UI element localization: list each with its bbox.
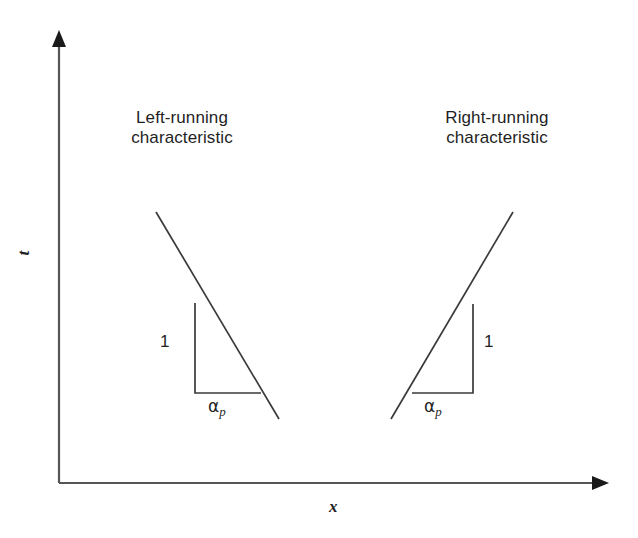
- t-axis-label: t: [14, 251, 34, 256]
- left-running-characteristic-line: [156, 212, 279, 419]
- left-running-characteristic-label-line2: characteristic: [131, 128, 233, 147]
- left-run-label-symbol: α: [208, 396, 219, 416]
- left-running-characteristic-label: Left-runningcharacteristic: [92, 108, 272, 148]
- left-running-characteristic-label-line1: Left-running: [136, 108, 228, 127]
- right-run-label: αp: [424, 396, 442, 419]
- left-run-label: αp: [208, 396, 226, 419]
- x-axis-arrowhead-icon: [592, 476, 609, 490]
- diagram-canvas: [0, 0, 638, 538]
- t-axis-arrowhead-icon: [52, 30, 66, 47]
- left-run-label-subscript: p: [219, 404, 226, 419]
- characteristics-diagram: Left-runningcharacteristic Right-running…: [0, 0, 638, 538]
- right-running-characteristic-line: [391, 212, 513, 419]
- left-slope-triangle-corner: [195, 303, 261, 393]
- right-rise-label: 1: [484, 332, 493, 352]
- right-running-characteristic-label-line1: Right-running: [445, 108, 548, 127]
- right-running-characteristic-label: Right-runningcharacteristic: [404, 108, 590, 148]
- right-run-label-subscript: p: [435, 404, 442, 419]
- right-run-label-symbol: α: [424, 396, 435, 416]
- right-running-characteristic-label-line2: characteristic: [446, 128, 548, 147]
- left-rise-label: 1: [160, 332, 169, 352]
- right-slope-triangle-corner: [412, 304, 473, 393]
- x-axis-label: x: [329, 497, 338, 517]
